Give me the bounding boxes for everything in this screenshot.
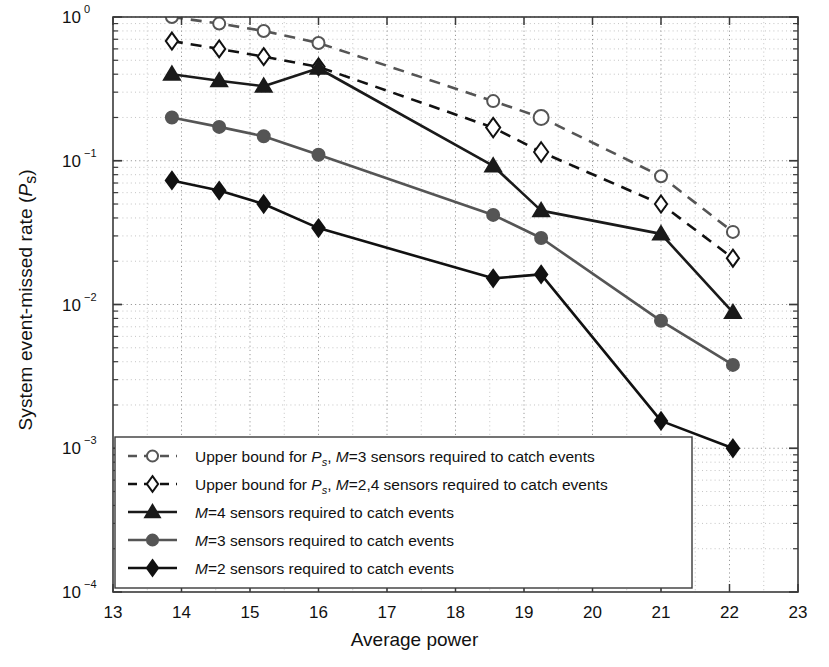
legend-label: M=3 sensors required to catch events xyxy=(195,532,454,549)
data-point-circle xyxy=(535,232,547,244)
svg-text:10: 10 xyxy=(62,583,81,602)
x-tick-label: 13 xyxy=(104,603,123,622)
svg-text:0: 0 xyxy=(84,3,90,15)
data-point-circle xyxy=(313,37,325,49)
x-tick-label: 20 xyxy=(583,603,602,622)
svg-text:−2: −2 xyxy=(84,291,97,303)
data-point-circle xyxy=(655,315,667,327)
x-tick-label: 16 xyxy=(309,603,328,622)
svg-text:10: 10 xyxy=(62,296,81,315)
y-tick-label: 10−1 xyxy=(62,147,96,171)
y-tick-label: 100 xyxy=(62,3,90,27)
data-point-circle xyxy=(487,209,499,221)
svg-text:10: 10 xyxy=(62,8,81,27)
chart-plot: 1314151617181920212223 10010−110−210−310… xyxy=(0,0,829,667)
data-point-circle xyxy=(213,18,225,30)
data-point-circle xyxy=(655,170,667,182)
figure-container: System event-missed rate (Ps) Average po… xyxy=(0,0,829,667)
svg-text:−4: −4 xyxy=(84,578,97,590)
data-point-circle xyxy=(313,149,325,161)
data-point-circle xyxy=(258,25,270,37)
x-tick-label: 19 xyxy=(515,603,534,622)
data-point-circle xyxy=(258,130,270,142)
data-point-circle xyxy=(727,359,739,371)
data-point-circle xyxy=(534,110,549,125)
legend-label: M=2 sensors required to catch events xyxy=(195,560,454,577)
svg-text:10: 10 xyxy=(62,439,81,458)
x-tick-label: 17 xyxy=(378,603,397,622)
data-point-circle xyxy=(147,534,158,545)
legend[interactable]: Upper bound for Ps, M=3 sensors required… xyxy=(115,437,692,588)
y-axis-tick-labels: 10010−110−210−310−4 xyxy=(62,3,96,602)
svg-text:−1: −1 xyxy=(84,147,97,159)
data-point-circle xyxy=(213,121,225,133)
y-tick-label: 10−3 xyxy=(62,434,96,458)
y-tick-label: 10−2 xyxy=(62,291,96,315)
data-point-circle xyxy=(727,226,739,238)
legend-label: M=4 sensors required to catch events xyxy=(195,504,454,521)
data-point-circle xyxy=(487,95,499,107)
x-tick-label: 14 xyxy=(172,603,191,622)
svg-text:10: 10 xyxy=(62,152,81,171)
data-point-circle xyxy=(147,450,158,461)
y-tick-label: 10−4 xyxy=(62,578,96,602)
x-axis-tick-labels: 1314151617181920212223 xyxy=(104,603,808,622)
x-tick-label: 18 xyxy=(446,603,465,622)
data-point-circle xyxy=(166,111,178,123)
x-tick-label: 23 xyxy=(789,603,808,622)
svg-text:−3: −3 xyxy=(84,434,97,446)
x-tick-label: 21 xyxy=(652,603,671,622)
x-tick-label: 15 xyxy=(241,603,260,622)
x-tick-label: 22 xyxy=(720,603,739,622)
